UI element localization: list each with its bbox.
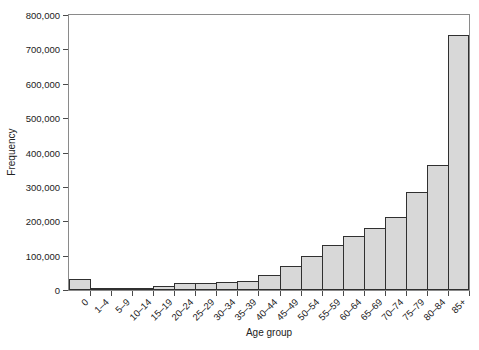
x-tick — [427, 291, 428, 296]
y-tick — [63, 256, 68, 257]
x-tick — [258, 291, 259, 296]
y-tick-label: 300,000 — [0, 182, 60, 193]
x-tick — [90, 291, 91, 296]
y-tick — [63, 290, 68, 291]
x-tick-label-text: 40–44 — [253, 297, 279, 323]
bar-15–19 — [153, 286, 175, 290]
bar-10–14 — [132, 288, 154, 290]
x-tick — [280, 291, 281, 296]
x-tick — [322, 291, 323, 296]
bar-0 — [69, 279, 91, 290]
x-tick-label-text: 35–39 — [232, 297, 258, 323]
x-tick — [364, 291, 365, 296]
x-tick-label-text: 70–74 — [379, 297, 405, 323]
x-tick — [301, 291, 302, 296]
x-tick-label-text: 20–24 — [169, 297, 195, 323]
bar-1–4 — [90, 288, 112, 290]
bar-70–74 — [385, 217, 407, 290]
y-tick-label: 0 — [0, 285, 60, 296]
plot-area — [68, 14, 470, 291]
x-tick — [385, 291, 386, 296]
x-tick — [111, 291, 112, 296]
bar-35–39 — [237, 281, 259, 290]
x-tick — [343, 291, 344, 296]
bar-30–34 — [216, 282, 238, 290]
x-tick — [132, 291, 133, 296]
x-tick-label-text: 65–69 — [358, 297, 384, 323]
x-tick-label-text: 80–84 — [421, 297, 447, 323]
y-tick — [63, 153, 68, 154]
x-tick — [237, 291, 238, 296]
x-tick-label-text: 1–4 — [93, 297, 111, 315]
y-tick-label: 800,000 — [0, 10, 60, 21]
x-tick-label-text: 30–34 — [211, 297, 237, 323]
y-tick-label: 100,000 — [0, 251, 60, 262]
x-tick — [195, 291, 196, 296]
y-tick-label: 400,000 — [0, 148, 60, 159]
x-tick-label-text: 15–19 — [148, 297, 174, 323]
x-tick-label-text: 60–64 — [337, 297, 363, 323]
x-tick — [174, 291, 175, 296]
bar-20–24 — [174, 283, 196, 290]
y-tick — [63, 187, 68, 188]
x-tick-label-text: 50–54 — [295, 297, 321, 323]
x-tick-label-text: 10–14 — [127, 297, 153, 323]
bar-55–59 — [322, 245, 344, 290]
bar-25–29 — [195, 283, 217, 290]
y-tick-label: 200,000 — [0, 216, 60, 227]
x-tick — [153, 291, 154, 296]
bar-85+ — [448, 35, 469, 290]
y-tick — [63, 84, 68, 85]
bar-40–44 — [258, 275, 280, 290]
y-tick — [63, 15, 68, 16]
y-tick — [63, 49, 68, 50]
y-tick-label: 700,000 — [0, 44, 60, 55]
x-tick-label-text: 55–59 — [316, 297, 342, 323]
x-tick-label-text: 75–79 — [400, 297, 426, 323]
x-tick — [216, 291, 217, 296]
bar-65–69 — [364, 228, 386, 290]
x-axis-title: Age group — [68, 327, 470, 338]
bar-50–54 — [301, 256, 323, 290]
age-frequency-histogram: Frequency Age group 0100,000200,000300,0… — [0, 0, 479, 350]
y-tick-label: 600,000 — [0, 79, 60, 90]
x-tick — [448, 291, 449, 296]
bar-5–9 — [111, 288, 133, 290]
bar-45–49 — [280, 266, 302, 290]
bar-75–79 — [406, 192, 428, 290]
y-tick — [63, 221, 68, 222]
x-tick-label-text: 85+ — [450, 297, 468, 315]
y-tick-label: 500,000 — [0, 113, 60, 124]
x-tick-label-text: 25–29 — [190, 297, 216, 323]
x-tick-label-text: 0 — [79, 297, 90, 308]
x-tick — [406, 291, 407, 296]
x-tick-label-text: 45–49 — [274, 297, 300, 323]
y-tick — [63, 118, 68, 119]
bar-80–84 — [427, 165, 449, 290]
bar-60–64 — [343, 236, 365, 290]
x-tick — [469, 291, 470, 296]
